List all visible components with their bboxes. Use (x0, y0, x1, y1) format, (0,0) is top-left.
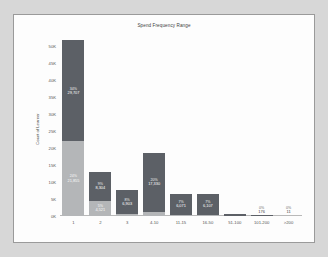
bar-value-label: 17,330 (148, 182, 160, 186)
bar[interactable]: 0%176 (251, 215, 273, 216)
y-axis-tick: 40K (49, 77, 56, 82)
bar[interactable]: 7%6,071 (170, 194, 192, 216)
bar-segment[interactable] (170, 215, 192, 216)
plot-area: 34%29,70724%21,8559%8,3045%4,5218%6,9032… (60, 37, 302, 216)
bar-segment[interactable] (251, 215, 273, 216)
bar[interactable]: 7%6,107 (197, 194, 219, 216)
x-axis-tick: 101-200 (248, 220, 275, 228)
bar-slot: 34%29,70724%21,855 (60, 37, 87, 216)
chart-card: Spend Frequency Range Count of Learner 3… (13, 14, 315, 243)
y-axis-tick: 20K (49, 145, 56, 150)
x-axis-tick: 1 (60, 220, 87, 228)
x-axis-tick: 11-15 (168, 220, 195, 228)
bar-segment[interactable] (116, 214, 138, 216)
chart-title: Spend Frequency Range (14, 23, 314, 28)
x-axis-ticks: 1234-1011-1516-5051-100101-200>200 (60, 220, 302, 228)
bar-segment[interactable]: 20%17,330 (143, 153, 165, 212)
bar-slot: 0%176 (248, 37, 275, 216)
bar-slot: 8%6,903 (114, 37, 141, 216)
bar[interactable] (224, 214, 246, 216)
bar-value-label: 21,855 (67, 179, 79, 183)
bar-value-label: 4,521 (95, 208, 105, 212)
bar-slot: 7%6,107 (194, 37, 221, 216)
bar-outside-label: 0%176 (258, 206, 265, 215)
bar-value-label: 6,107 (203, 204, 213, 208)
bar[interactable]: 8%6,903 (116, 190, 138, 216)
bar-segment[interactable]: 24%21,855 (62, 141, 84, 216)
bar-segment[interactable] (197, 215, 219, 216)
y-axis-tick: 50K (49, 43, 56, 48)
y-axis-tick: 15K (49, 162, 56, 167)
x-axis-tick: 3 (114, 220, 141, 228)
bar-value-label: 6,903 (122, 202, 132, 206)
bar[interactable]: 34%29,70724%21,855 (62, 40, 84, 216)
x-axis-tick: 51-100 (221, 220, 248, 228)
bar-segment[interactable]: 9%8,304 (89, 172, 111, 200)
y-axis-tick: 25K (49, 128, 56, 133)
bar-slot (221, 37, 248, 216)
bar-segment[interactable] (143, 212, 165, 216)
bar-value-label: 176 (258, 210, 265, 215)
bar-segment[interactable]: 8%6,903 (116, 190, 138, 214)
bar-segment[interactable]: 7%6,107 (197, 194, 219, 215)
bar-slot: 9%8,3045%4,521 (87, 37, 114, 216)
y-axis-tick: 45K (49, 60, 56, 65)
bar-segment[interactable]: 34%29,707 (62, 40, 84, 141)
y-axis-tick: 30K (49, 111, 56, 116)
y-axis-tick: 35K (49, 94, 56, 99)
bar-value-label: 29,707 (67, 91, 79, 95)
x-axis-tick: 4-10 (141, 220, 168, 228)
y-axis-label: Count of Learner (35, 113, 40, 144)
x-axis-tick: >200 (275, 220, 302, 228)
y-axis-tick: 10K (49, 179, 56, 184)
bar-slot: 7%6,071 (168, 37, 195, 216)
bar-value-label: 8,304 (95, 186, 105, 190)
bar[interactable]: 20%17,330 (143, 153, 165, 216)
bar-segment[interactable]: 5%4,521 (89, 201, 111, 216)
bar-outside-label: 0%11 (286, 206, 291, 215)
bar[interactable]: 9%8,3045%4,521 (89, 172, 111, 216)
bar-segment[interactable] (224, 214, 246, 216)
y-axis-tick: 5K (51, 196, 56, 201)
bar-slot: 0%11 (275, 37, 302, 216)
chart-app: Spend Frequency Range Count of Learner 3… (0, 0, 328, 257)
bar-slot: 20%17,330 (141, 37, 168, 216)
y-axis-tick: 0K (51, 214, 56, 219)
bar-value-label: 11 (286, 210, 291, 215)
bar-segment[interactable]: 7%6,071 (170, 194, 192, 215)
x-axis-tick: 16-50 (194, 220, 221, 228)
bar-group: 34%29,70724%21,8559%8,3045%4,5218%6,9032… (60, 37, 302, 216)
bar-value-label: 6,071 (176, 204, 186, 208)
x-axis-tick: 2 (87, 220, 114, 228)
